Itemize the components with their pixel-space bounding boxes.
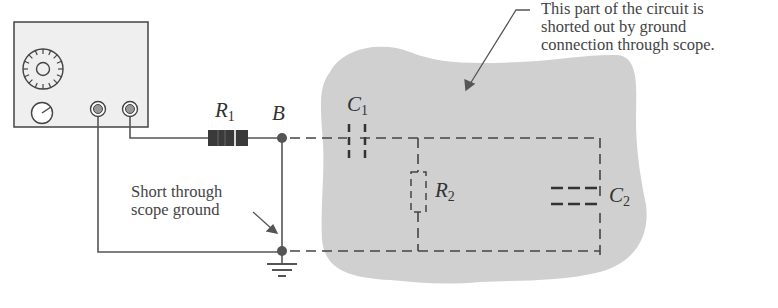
scope-knob-icon <box>32 103 53 124</box>
ground-node-dot <box>277 246 287 256</box>
ground-jack-icon <box>91 102 106 117</box>
label-c1: C1 <box>347 92 368 119</box>
oscilloscope <box>14 22 148 127</box>
annotation-shorted-region: This part of the circuit is shorted out … <box>541 0 715 54</box>
label-r1: R1 <box>215 98 235 125</box>
label-node-b: B <box>272 101 285 126</box>
shorted-region <box>321 47 647 284</box>
label-r2: R2 <box>435 178 455 205</box>
resistor-r1-icon <box>208 130 248 146</box>
node-b-dot <box>277 133 287 143</box>
probe-jack-icon <box>123 102 138 117</box>
ground-icon <box>267 264 297 276</box>
circuit-diagram: R1 B C1 R2 C2 This part of the circuit i… <box>0 0 778 308</box>
annotation-scope-ground: Short through scope ground <box>131 183 222 219</box>
annotation-arrow-left <box>253 212 277 233</box>
label-c2: C2 <box>609 183 630 210</box>
